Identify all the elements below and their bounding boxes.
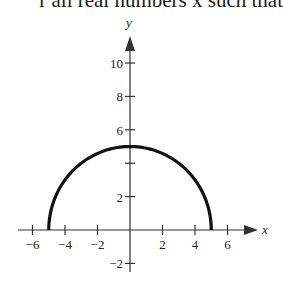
chart: −6−4−2246 −226810 x y <box>0 0 283 292</box>
y-axis-label: y <box>124 15 132 30</box>
y-axis <box>125 36 135 272</box>
y-ticks: −226810 <box>109 56 135 271</box>
x-tick-label: −2 <box>91 237 105 252</box>
y-tick-label: 10 <box>110 56 123 71</box>
y-tick-label: 6 <box>117 123 124 138</box>
y-tick-label: 2 <box>117 190 124 205</box>
x-axis-label: x <box>261 222 268 237</box>
y-tick-label: 8 <box>117 89 124 104</box>
x-ticks: −6−4−2246 <box>26 225 232 252</box>
x-axis-arrow-icon <box>244 225 258 235</box>
y-axis-arrow-icon <box>125 36 135 51</box>
x-tick-label: 4 <box>192 237 199 252</box>
y-tick-label: −2 <box>109 256 123 271</box>
x-tick-label: −4 <box>58 237 72 252</box>
x-tick-label: 6 <box>224 237 231 252</box>
x-tick-label: −6 <box>26 237 40 252</box>
x-tick-label: 2 <box>159 237 166 252</box>
x-axis <box>18 225 258 235</box>
